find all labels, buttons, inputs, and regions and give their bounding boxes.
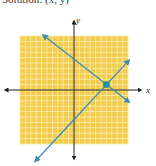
x-axis-label: x [145,85,150,95]
chart: y x [0,0,156,166]
y-axis-label: y [75,15,80,25]
solution-point [103,82,109,88]
